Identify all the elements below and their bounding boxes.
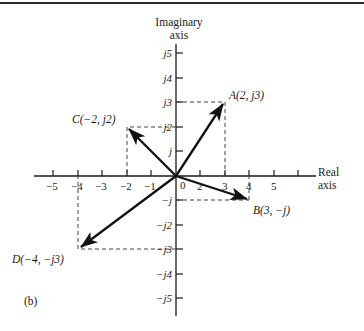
x-tick-label-2: 2 — [197, 181, 203, 192]
x-tick-label-5: 5 — [271, 181, 277, 192]
y-tick-label-j1: j — [142, 146, 172, 157]
y-tick-label-minus-j2: −j2 — [142, 220, 172, 231]
point-label-B: B(3, −j) — [253, 205, 290, 216]
point-label-D: D(−4, −j3) — [12, 254, 64, 265]
point-label-C: C(−2, j2) — [72, 114, 116, 125]
x-tick-label-minus5: −5 — [46, 181, 58, 192]
x-tick-label-minus2: −2 — [120, 181, 132, 192]
y-tick-label-j2: j2 — [142, 122, 172, 133]
origin-label: 0 — [180, 180, 186, 191]
x-tick-label-4: 4 — [246, 181, 252, 192]
y-tick-label-j3: j3 — [142, 97, 172, 108]
imaginary-axis-title-line2: axis — [170, 29, 189, 41]
real-axis-title-line2: axis — [318, 179, 337, 191]
argand-diagram-figure: Imaginary axis Real axis 0 −5 −4 −3 −2 −… — [0, 0, 364, 331]
y-tick-label-j5: j5 — [142, 48, 172, 59]
x-tick-label-minus3: −3 — [95, 181, 107, 192]
y-tick-label-j4: j4 — [142, 73, 172, 84]
y-tick-label-minus-j5: −j5 — [142, 293, 172, 304]
real-axis-title: Real axis — [318, 166, 360, 191]
y-tick-label-minus-j1: −j — [142, 195, 172, 206]
imaginary-axis-title: Imaginary axis — [140, 16, 218, 41]
x-tick-label-minus1: −1 — [144, 181, 156, 192]
figure-caption: (b) — [24, 296, 37, 307]
imaginary-axis-title-line1: Imaginary — [155, 16, 202, 28]
y-tick-label-minus-j3: −j3 — [142, 244, 172, 255]
x-tick-label-3: 3 — [222, 181, 228, 192]
point-label-A: A(2, j3) — [229, 90, 264, 101]
vector-B — [176, 176, 247, 199]
complex-plane-plot — [0, 0, 364, 331]
y-tick-label-minus-j4: −j4 — [142, 269, 172, 280]
real-axis-title-line1: Real — [318, 166, 339, 178]
vector-A — [176, 104, 223, 176]
x-tick-label-minus4: −4 — [71, 181, 83, 192]
